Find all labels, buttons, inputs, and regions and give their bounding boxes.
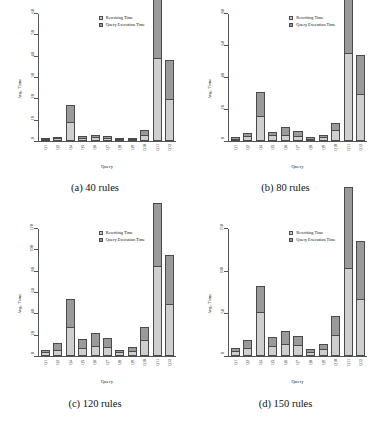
bar-group[interactable]: Q12 (164, 14, 176, 141)
stacked-bar[interactable] (268, 337, 277, 356)
stacked-bar[interactable] (344, 0, 353, 141)
bar-segment-query-execution-time[interactable] (66, 299, 75, 328)
bar-group[interactable]: Q7 (292, 229, 305, 356)
bar-group[interactable]: Q7 (101, 229, 113, 356)
stacked-bar[interactable] (66, 105, 75, 141)
bar-group[interactable]: Q7 (101, 14, 113, 141)
bar-group[interactable]: Q12 (354, 229, 367, 356)
stacked-bar[interactable] (91, 135, 100, 141)
bar-segment-rewriting-time[interactable] (256, 312, 265, 356)
bar-segment-rewriting-time[interactable] (128, 139, 137, 141)
stacked-bar[interactable] (356, 241, 365, 356)
stacked-bar[interactable] (256, 92, 265, 141)
stacked-bar[interactable] (319, 344, 328, 356)
stacked-bar[interactable] (256, 286, 265, 356)
stacked-bar[interactable] (140, 327, 149, 356)
bar-group[interactable]: Q1 (229, 14, 242, 141)
stacked-bar[interactable] (344, 187, 353, 357)
bar-segment-rewriting-time[interactable] (165, 99, 174, 141)
bar-segment-query-execution-time[interactable] (356, 55, 365, 94)
stacked-bar[interactable] (66, 299, 75, 356)
stacked-bar[interactable] (268, 132, 277, 141)
stacked-bar[interactable] (140, 130, 149, 141)
stacked-bar[interactable] (306, 349, 315, 356)
bar-segment-rewriting-time[interactable] (344, 268, 353, 356)
stacked-bar[interactable] (356, 55, 365, 141)
stacked-bar[interactable] (103, 338, 112, 356)
stacked-bar[interactable] (78, 339, 87, 356)
bar-group[interactable]: Q2 (242, 14, 255, 141)
bar-group[interactable]: Q8 (304, 14, 317, 141)
bar-group[interactable]: Q7 (292, 14, 305, 141)
bar-group[interactable]: Q9 (317, 229, 330, 356)
stacked-bar[interactable] (53, 137, 62, 141)
stacked-bar[interactable] (293, 336, 302, 356)
bar-segment-rewriting-time[interactable] (356, 299, 365, 356)
stacked-bar[interactable] (41, 138, 50, 141)
bar-segment-rewriting-time[interactable] (53, 350, 62, 357)
bar-segment-rewriting-time[interactable] (140, 340, 149, 356)
bar-segment-query-execution-time[interactable] (165, 255, 174, 304)
bar-group[interactable]: Q12 (164, 229, 176, 356)
bar-group[interactable]: Q1 (39, 14, 51, 141)
bar-segment-rewriting-time[interactable] (103, 138, 112, 141)
bar-segment-rewriting-time[interactable] (256, 116, 265, 141)
bar-segment-query-execution-time[interactable] (103, 338, 112, 347)
stacked-bar[interactable] (243, 340, 252, 356)
bar-segment-rewriting-time[interactable] (41, 352, 50, 356)
stacked-bar[interactable] (331, 316, 340, 356)
bar-segment-rewriting-time[interactable] (91, 346, 100, 356)
stacked-bar[interactable] (281, 331, 290, 356)
stacked-bar[interactable] (41, 350, 50, 356)
stacked-bar[interactable] (231, 348, 240, 356)
bar-segment-rewriting-time[interactable] (53, 138, 62, 141)
stacked-bar[interactable] (165, 60, 174, 141)
stacked-bar[interactable] (231, 137, 240, 141)
bar-group[interactable]: Q12 (354, 14, 367, 141)
bar-segment-query-execution-time[interactable] (243, 340, 252, 347)
bar-group[interactable]: Q4 (64, 229, 76, 356)
bar-segment-query-execution-time[interactable] (356, 241, 365, 299)
bar-segment-rewriting-time[interactable] (281, 135, 290, 141)
bar-segment-rewriting-time[interactable] (319, 349, 328, 356)
bar-group[interactable]: Q10 (139, 14, 151, 141)
bar-segment-query-execution-time[interactable] (268, 337, 277, 345)
bar-group[interactable]: Q4 (254, 229, 267, 356)
bar-group[interactable]: Q10 (329, 14, 342, 141)
stacked-bar[interactable] (319, 135, 328, 141)
stacked-bar[interactable] (331, 123, 340, 141)
bar-segment-rewriting-time[interactable] (41, 139, 50, 141)
bar-group[interactable]: Q6 (279, 14, 292, 141)
bar-group[interactable]: Q11 (151, 14, 163, 141)
stacked-bar[interactable] (293, 131, 302, 141)
bar-segment-rewriting-time[interactable] (231, 139, 240, 141)
bar-segment-query-execution-time[interactable] (165, 60, 174, 99)
bar-segment-query-execution-time[interactable] (281, 127, 290, 135)
bar-group[interactable]: Q5 (267, 229, 280, 356)
bar-segment-rewriting-time[interactable] (243, 136, 252, 141)
bar-segment-rewriting-time[interactable] (66, 122, 75, 142)
bar-segment-rewriting-time[interactable] (115, 139, 124, 141)
bar-segment-rewriting-time[interactable] (153, 58, 162, 141)
bar-group[interactable]: Q8 (114, 14, 126, 141)
stacked-bar[interactable] (281, 127, 290, 141)
bar-group[interactable]: Q6 (89, 14, 101, 141)
stacked-bar[interactable] (153, 203, 162, 356)
stacked-bar[interactable] (115, 350, 124, 356)
bar-group[interactable]: Q8 (114, 229, 126, 356)
bar-segment-rewriting-time[interactable] (103, 347, 112, 356)
bar-segment-rewriting-time[interactable] (140, 135, 149, 142)
bar-segment-rewriting-time[interactable] (331, 335, 340, 356)
stacked-bar[interactable] (128, 347, 137, 356)
stacked-bar[interactable] (153, 0, 162, 141)
stacked-bar[interactable] (78, 136, 87, 141)
stacked-bar[interactable] (165, 255, 174, 356)
bar-segment-query-execution-time[interactable] (331, 123, 340, 130)
stacked-bar[interactable] (103, 136, 112, 141)
bar-group[interactable]: Q6 (89, 229, 101, 356)
bar-segment-rewriting-time[interactable] (153, 266, 162, 356)
bar-segment-rewriting-time[interactable] (231, 351, 240, 356)
bar-segment-rewriting-time[interactable] (165, 304, 174, 356)
stacked-bar[interactable] (128, 138, 137, 141)
bar-segment-query-execution-time[interactable] (140, 327, 149, 340)
